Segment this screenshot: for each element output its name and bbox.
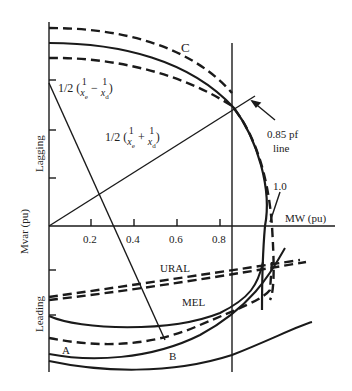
label-c: C <box>181 40 190 56</box>
x-tick-0-6: 0.6 <box>169 233 183 245</box>
mel-label: MEL <box>182 296 205 308</box>
formula-sum: 1/2 (1xe + 1xd) <box>105 125 160 152</box>
pf-line-label: 0.85 pf <box>267 128 298 140</box>
pf-line <box>49 96 255 226</box>
x-tick-0-4: 0.4 <box>126 233 140 245</box>
solid-bottom-curve <box>49 322 312 370</box>
y-axis-label-leading: Leading <box>33 296 45 332</box>
pf-line-label-2: line <box>273 142 290 154</box>
y-axis-label-lagging: Lagging <box>33 135 45 172</box>
y-axis-label: Mvar (pu) <box>18 209 30 254</box>
capability-diagram <box>0 0 352 391</box>
x-tick-0-2: 0.2 <box>83 233 97 245</box>
ural-label: URAL <box>160 262 190 274</box>
solid-mel-curve <box>49 262 263 327</box>
unity-label: 1.0 <box>273 180 287 192</box>
x-tick-0-8: 0.8 <box>212 233 226 245</box>
label-b: B <box>169 350 176 362</box>
reactance-line <box>49 83 165 340</box>
label-a: A <box>62 344 70 356</box>
x-axis-label: MW (pu) <box>285 212 326 224</box>
formula-difference: 1/2 (1xe − 1xd) <box>58 76 113 103</box>
